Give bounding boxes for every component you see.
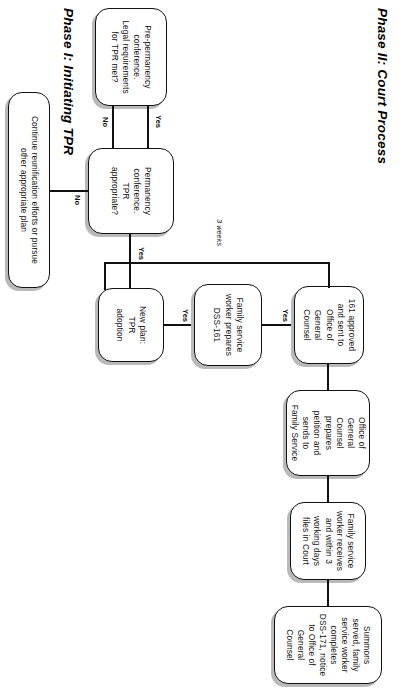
node-line: Summons: [361, 614, 372, 677]
bracket-3weeks-spine: [105, 262, 330, 264]
phase-2-title: Phase II: Court Process: [375, 8, 390, 164]
node-line: Counsel: [334, 405, 345, 461]
node-line: completes: [328, 614, 339, 677]
bracket-3weeks-arm-upper: [328, 262, 330, 288]
node-line: prepares: [322, 405, 333, 461]
edge-label-yes-new-plan-to-161: Yes: [181, 308, 190, 323]
node-line: worker prepares: [222, 294, 233, 356]
node-line: Office of: [356, 405, 367, 461]
edge-ogc-to-court: [327, 476, 329, 502]
node-line: Counsel: [301, 299, 312, 351]
node-pre-permanency-conference: Pre-permanency conference. Legal require…: [95, 8, 167, 106]
node-161-approved: 161 approved and sent to Office of Gener…: [294, 286, 364, 364]
node-line: worker receives: [334, 511, 345, 571]
node-line: General: [345, 405, 356, 461]
node-line: petition and: [311, 405, 322, 461]
node-line: Family service: [345, 511, 356, 571]
bracket-label-3-weeks: 3 weeks: [215, 218, 224, 247]
node-ogc-prepares-petition: Office of General Counsel prepares petit…: [286, 390, 370, 476]
edge-new-plan-riser: [164, 324, 194, 326]
node-line: working days: [311, 511, 322, 571]
node-line: Pre-permanency: [142, 20, 153, 94]
node-line: and within 3: [322, 511, 333, 571]
node-line: adoption: [114, 306, 125, 344]
edge-161-riser: [262, 324, 294, 326]
edge-161-to-ogc: [327, 364, 329, 390]
node-line: Legal requirements: [120, 20, 131, 94]
node-line: DSS-171, notice: [317, 614, 328, 677]
node-line: service worker: [339, 614, 350, 677]
edge-label-no-to-continue: No: [73, 194, 82, 206]
node-line: 161 approved: [346, 299, 357, 351]
node-line: conference.: [131, 167, 142, 215]
node-line: General: [312, 299, 323, 351]
edge-label-yes-to-new-plan: Yes: [137, 246, 146, 261]
node-line: files in Court: [300, 511, 311, 571]
node-prepares-dss-161: Family service worker prepares DSS-161: [194, 284, 262, 366]
node-line: Counsel: [284, 614, 295, 677]
edge-permanency-to-continue: [50, 190, 88, 192]
node-line: Office of: [323, 299, 334, 351]
node-line: conference.: [131, 20, 142, 94]
edge-label-no-permanency: No: [101, 116, 110, 128]
node-line: Family service: [234, 294, 245, 356]
node-line: Permanency: [142, 167, 153, 215]
phase-1-title: Phase I: Initiating TPR: [61, 8, 76, 155]
node-line: and sent to: [335, 299, 346, 351]
edge-court-to-summons: [327, 580, 329, 606]
node-line: New plan:: [137, 306, 148, 344]
node-summons-served: Summons served, family service worker co…: [274, 606, 382, 684]
edge-pre-to-permanency: [147, 106, 149, 148]
bracket-3weeks-arm-lower: [104, 262, 106, 290]
node-line: TPR: [120, 167, 131, 215]
node-files-in-court: Family service worker receives and withi…: [290, 502, 366, 580]
node-line: Family Service: [289, 405, 300, 461]
node-line: Continue reunification efforts or pursue: [29, 116, 40, 264]
node-line: to Office of: [306, 614, 317, 677]
node-line: appropriate?: [109, 167, 120, 215]
flowchart-canvas: Phase I: Initiating TPR Phase II: Court …: [0, 0, 412, 692]
node-line: DSS-161: [211, 294, 222, 356]
node-new-plan-tpr-adoption: New plan: TPR adoption: [98, 288, 164, 362]
node-permanency-conference: Permanency conference. TPR appropriate?: [88, 148, 174, 234]
edge-label-yes-pre-to-permanency: Yes: [154, 114, 163, 129]
edge-label-yes-161-approved: Yes: [281, 308, 290, 323]
node-line: other appropriate plan: [18, 116, 29, 264]
node-line: General: [295, 614, 306, 677]
node-line: for TPR met?: [109, 20, 120, 94]
edge-permanency-no-stub: [112, 106, 114, 148]
node-line: served, family: [350, 614, 361, 677]
node-line: sends to: [300, 405, 311, 461]
node-continue-reunification: Continue reunification efforts or pursue…: [8, 92, 50, 288]
edge-permanency-to-new-plan: [129, 234, 131, 288]
node-line: TPR: [125, 306, 136, 344]
